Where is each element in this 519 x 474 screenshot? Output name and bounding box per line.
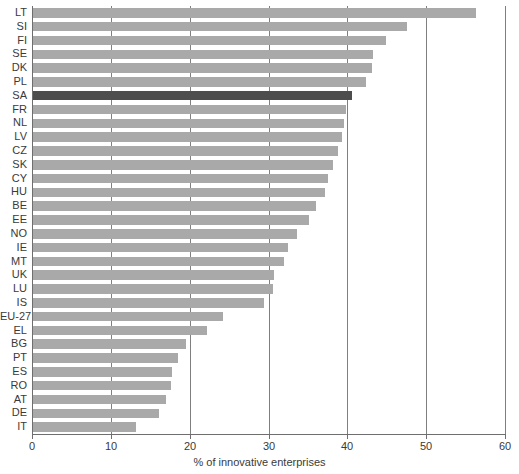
chart-row: LV (0, 130, 519, 144)
bar (33, 353, 178, 363)
bar (33, 243, 288, 253)
bar (33, 395, 166, 405)
y-category-label: PL (0, 75, 27, 89)
chart-row: CY (0, 172, 519, 186)
chart-row: LU (0, 282, 519, 296)
y-category-label: SA (0, 89, 27, 103)
chart-row: HU (0, 185, 519, 199)
bar (33, 298, 264, 308)
chart-row: IE (0, 241, 519, 255)
plot-area: 0102030405060LTSIFISEDKPLSAFRNLLVCZSKCYH… (0, 0, 519, 440)
y-category-label: CY (0, 172, 27, 186)
chart-row: UK (0, 268, 519, 282)
bar (33, 77, 366, 87)
chart-row: SE (0, 47, 519, 61)
chart-row: EU-27 (0, 310, 519, 324)
bar (33, 8, 476, 18)
bar (33, 146, 338, 156)
chart-row: ES (0, 365, 519, 379)
chart-row: NL (0, 116, 519, 130)
y-category-label: BG (0, 337, 27, 351)
bar (33, 270, 274, 280)
y-category-label: UK (0, 268, 27, 282)
y-category-label: ES (0, 365, 27, 379)
bar (33, 50, 373, 60)
bar (33, 36, 386, 46)
y-category-label: IE (0, 241, 27, 255)
bar (33, 63, 372, 73)
bar (33, 284, 273, 294)
y-category-label: EU-27 (0, 310, 27, 324)
bar (33, 422, 136, 432)
x-axis-line (32, 434, 506, 435)
x-tick-label: 60 (499, 440, 511, 453)
x-axis-title: % of innovative enterprises (0, 456, 519, 469)
chart-row: PT (0, 351, 519, 365)
chart-row: SK (0, 158, 519, 172)
bar (33, 201, 316, 211)
bar (33, 132, 342, 142)
chart-row: SI (0, 20, 519, 34)
bar (33, 22, 407, 32)
bar (33, 312, 223, 322)
y-category-label: FR (0, 103, 27, 117)
bar-chart: 0102030405060LTSIFISEDKPLSAFRNLLVCZSKCYH… (0, 0, 519, 474)
y-category-label: LU (0, 282, 27, 296)
bar (33, 174, 328, 184)
y-category-label: EE (0, 213, 27, 227)
chart-row: IS (0, 296, 519, 310)
y-category-label: IS (0, 296, 27, 310)
y-category-label: NO (0, 227, 27, 241)
chart-row: AT (0, 393, 519, 407)
chart-row: DK (0, 61, 519, 75)
bar (33, 257, 284, 267)
chart-row: NO (0, 227, 519, 241)
y-category-label: DE (0, 406, 27, 420)
chart-row: IT (0, 420, 519, 434)
bar (33, 326, 207, 336)
chart-row: EL (0, 324, 519, 338)
chart-row: EE (0, 213, 519, 227)
chart-row: PL (0, 75, 519, 89)
y-category-label: AT (0, 393, 27, 407)
y-category-label: RO (0, 379, 27, 393)
x-tick-label: 20 (184, 440, 196, 453)
chart-row: BE (0, 199, 519, 213)
bar (33, 160, 333, 170)
y-category-label: SE (0, 47, 27, 61)
chart-row: BG (0, 337, 519, 351)
bar (33, 188, 325, 198)
y-category-label: EL (0, 324, 27, 338)
chart-row: MT (0, 255, 519, 269)
y-category-label: HU (0, 185, 27, 199)
bar (33, 105, 346, 115)
x-tick-label: 30 (263, 440, 275, 453)
y-category-label: NL (0, 116, 27, 130)
x-tick-label: 10 (105, 440, 117, 453)
x-tick-label: 40 (341, 440, 353, 453)
y-category-label: SI (0, 20, 27, 34)
chart-row: FR (0, 103, 519, 117)
x-tick-label: 0 (29, 440, 35, 453)
chart-row: FI (0, 34, 519, 48)
chart-row: RO (0, 379, 519, 393)
y-category-label: BE (0, 199, 27, 213)
y-category-label: PT (0, 351, 27, 365)
bar (33, 381, 171, 391)
bar (33, 215, 309, 225)
y-category-label: MT (0, 255, 27, 269)
y-category-label: CZ (0, 144, 27, 158)
chart-row: CZ (0, 144, 519, 158)
y-category-label: IT (0, 420, 27, 434)
bar (33, 339, 186, 349)
chart-row: SA (0, 89, 519, 103)
y-category-label: SK (0, 158, 27, 172)
bar (33, 409, 159, 419)
y-category-label: FI (0, 34, 27, 48)
y-category-label: LT (0, 6, 27, 20)
bar (33, 119, 344, 129)
y-category-label: LV (0, 130, 27, 144)
x-tick-label: 50 (420, 440, 432, 453)
chart-row: DE (0, 406, 519, 420)
bar (33, 367, 172, 377)
